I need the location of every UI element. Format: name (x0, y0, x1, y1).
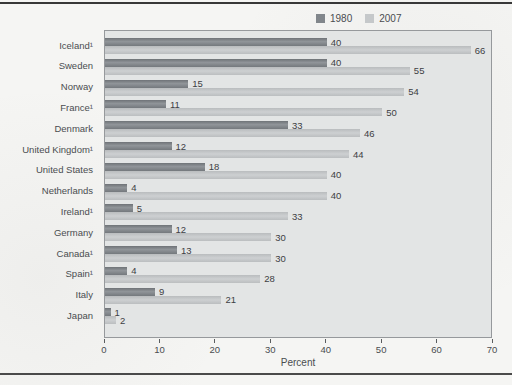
bar-1980 (105, 100, 166, 108)
bar-1980 (105, 267, 127, 275)
value-label-2007: 30 (275, 253, 286, 264)
bar-2007 (105, 254, 271, 262)
category-label: Canada¹ (57, 247, 93, 260)
value-label-2007: 50 (386, 107, 397, 118)
legend-item-1980: 1980 (316, 13, 352, 24)
bar-2007 (105, 88, 404, 96)
category-label: Denmark (54, 122, 93, 135)
category-label: Spain¹ (66, 267, 93, 280)
bar-2007 (105, 212, 288, 220)
value-label-2007: 54 (408, 86, 419, 97)
bar-2007 (105, 108, 382, 116)
category-label: Iceland¹ (59, 39, 93, 52)
value-label-2007: 46 (364, 128, 375, 139)
bottom-rule (0, 373, 512, 375)
axis-tick-label: 70 (477, 344, 507, 355)
axis-tick (104, 339, 105, 343)
bar-1980 (105, 184, 127, 192)
value-label-2007: 2 (120, 315, 125, 326)
category-label: Ireland¹ (61, 205, 93, 218)
top-rule (0, 2, 512, 4)
axis-tick (270, 339, 271, 343)
bar-1980 (105, 204, 133, 212)
value-label-2007: 40 (331, 169, 342, 180)
chart-legend: 19802007 (316, 13, 402, 24)
bar-1980 (105, 163, 205, 171)
x-axis-title: Percent (104, 357, 492, 368)
category-label: Norway (61, 80, 93, 93)
bar-2007 (105, 316, 116, 324)
bar-2007 (105, 67, 410, 75)
value-label-2007: 44 (353, 149, 364, 160)
legend-swatch-1980 (316, 14, 325, 23)
value-label-2007: 66 (475, 45, 486, 56)
category-label: United States (36, 163, 93, 176)
legend-label: 2007 (379, 13, 401, 24)
axis-tick-label: 50 (366, 344, 396, 355)
x-axis: 010203040506070 (104, 338, 492, 358)
axis-tick (325, 339, 326, 343)
axis-tick (214, 339, 215, 343)
bar-2007 (105, 171, 327, 179)
legend-item-2007: 2007 (365, 13, 401, 24)
axis-tick (159, 339, 160, 343)
value-label-2007: 21 (225, 294, 236, 305)
category-label: Japan (67, 309, 93, 322)
bar-1980 (105, 38, 327, 46)
axis-tick-label: 30 (255, 344, 285, 355)
axis-tick (381, 339, 382, 343)
axis-tick (492, 339, 493, 343)
legend-label: 1980 (330, 13, 352, 24)
category-label: Italy (76, 288, 93, 301)
bar-1980 (105, 59, 327, 67)
bar-2007 (105, 296, 221, 304)
category-label: Germany (54, 226, 93, 239)
value-label-2007: 30 (275, 232, 286, 243)
bar-1980 (105, 80, 188, 88)
legend-swatch-2007 (365, 14, 374, 23)
bar-2007 (105, 233, 271, 241)
bar-1980 (105, 225, 172, 233)
axis-tick-label: 60 (422, 344, 452, 355)
category-label: France¹ (60, 101, 93, 114)
bar-1980 (105, 308, 111, 316)
axis-tick-label: 20 (200, 344, 230, 355)
plot-area: 4066405515541150334612441840440533123013… (104, 30, 492, 338)
bar-2007 (105, 192, 327, 200)
category-label: United Kingdom¹ (22, 143, 93, 156)
axis-tick-label: 40 (311, 344, 341, 355)
bar-1980 (105, 121, 288, 129)
axis-tick (436, 339, 437, 343)
bar-2007 (105, 46, 471, 54)
category-label: Netherlands (42, 184, 93, 197)
bar-2007 (105, 275, 260, 283)
value-label-2007: 55 (414, 65, 425, 76)
bar-1980 (105, 288, 155, 296)
value-label-2007: 28 (264, 273, 275, 284)
axis-tick-label: 0 (89, 344, 119, 355)
value-label-2007: 40 (331, 190, 342, 201)
bar-1980 (105, 246, 177, 254)
value-label-2007: 33 (292, 211, 303, 222)
category-label: Sweden (59, 59, 93, 72)
category-axis: Iceland¹SwedenNorwayFrance¹DenmarkUnited… (0, 30, 100, 338)
bar-2007 (105, 150, 349, 158)
bar-2007 (105, 129, 360, 137)
axis-tick-label: 10 (144, 344, 174, 355)
bar-1980 (105, 142, 172, 150)
